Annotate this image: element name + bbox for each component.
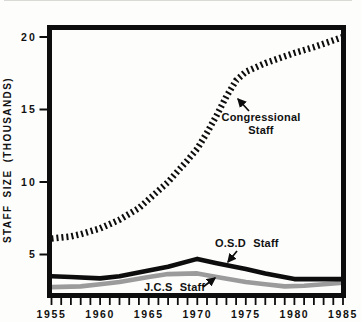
x-tick-label: 1985: [328, 308, 358, 320]
x-tick-label: 1980: [280, 308, 310, 320]
osd-staff-label: O.S.D Staff: [215, 237, 279, 249]
y-tick-label: 20: [21, 31, 37, 43]
congressional-staff-label-line1: Congressional: [221, 111, 300, 123]
congressional-staff-line: [52, 37, 344, 239]
chart-figure: 5101520 1955196019651970197519801985 STA…: [0, 0, 361, 322]
x-tick-label: 1955: [37, 308, 67, 320]
jcs-staff-label: J.C.S Staff: [144, 281, 205, 293]
x-tick-label: 1960: [85, 308, 115, 320]
y-tick-label: 10: [21, 176, 37, 188]
osd-staff-arrow: [228, 251, 237, 262]
plot-border: [50, 28, 344, 296]
congressional-staff-arrow: [238, 99, 249, 111]
y-axis-title: STAFF SIZE (THOUSANDS): [2, 77, 13, 243]
y-tick-label: 5: [29, 248, 37, 260]
x-tick-label: 1965: [134, 308, 164, 320]
congressional-staff-label-line2: Staff: [248, 124, 274, 136]
x-axis-ticks: [52, 298, 344, 306]
x-tick-label: 1975: [231, 308, 261, 320]
x-tick-label: 1970: [182, 308, 212, 320]
x-axis-tick-labels: 1955196019651970197519801985: [37, 308, 358, 320]
y-tick-label: 15: [21, 103, 37, 115]
y-axis-ticks: 5101520: [21, 31, 48, 260]
osd-staff-line: [52, 259, 344, 279]
staff-size-line-chart: 5101520 1955196019651970197519801985 STA…: [0, 0, 361, 322]
